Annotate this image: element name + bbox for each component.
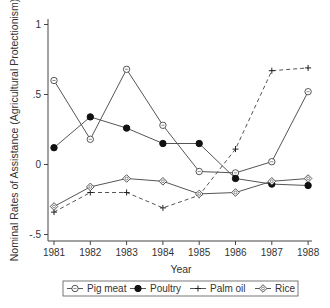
- x-tick-label: 1982: [79, 247, 102, 258]
- open-diamond-marker: [159, 178, 167, 186]
- filled-circle-marker: [232, 175, 238, 181]
- filled-circle-marker: [135, 285, 141, 291]
- x-tick-label: 1983: [115, 247, 138, 258]
- filled-circle-marker: [305, 182, 311, 188]
- nra-line-chart: 1.50-.519811982198319841985198619871988 …: [0, 0, 330, 308]
- y-axis-label: Nominal Rates of Assistance (Agricultura…: [8, 0, 20, 261]
- y-tick-label: -.5: [29, 229, 41, 240]
- x-axis-label: Year: [170, 263, 192, 275]
- legend-label: Poultry: [150, 283, 181, 294]
- x-tick-label: 1981: [43, 247, 66, 258]
- open-diamond-marker: [123, 175, 131, 183]
- open-diamond-marker: [50, 203, 58, 211]
- plus-marker: [269, 68, 275, 74]
- series-line: [54, 69, 308, 173]
- open-diamond-marker: [195, 190, 203, 198]
- legend-label: Rice: [275, 283, 295, 294]
- open-diamond-marker: [87, 183, 95, 191]
- plus-marker: [124, 190, 130, 196]
- x-tick-label: 1986: [224, 247, 247, 258]
- y-tick-label: 0: [35, 159, 41, 170]
- series-line: [54, 117, 308, 186]
- x-tick-label: 1985: [188, 247, 211, 258]
- legend: Pig meatPoultryPalm oilRice: [63, 281, 298, 296]
- x-tick-label: 1987: [261, 247, 284, 258]
- plus-marker: [160, 205, 166, 211]
- filled-circle-marker: [196, 140, 202, 146]
- legend-label: Palm oil: [210, 283, 246, 294]
- filled-circle-marker: [123, 125, 129, 131]
- filled-circle-marker: [160, 140, 166, 146]
- y-tick-label: 1: [35, 19, 41, 30]
- y-tick-label: .5: [33, 89, 42, 100]
- x-tick-label: 1984: [152, 247, 175, 258]
- x-tick-label: 1988: [297, 247, 320, 258]
- plus-marker: [305, 65, 311, 71]
- filled-circle-marker: [87, 114, 93, 120]
- axes: 1.50-.519811982198319841985198619871988: [29, 19, 319, 258]
- open-diamond-marker: [232, 189, 240, 197]
- plot-area: [50, 65, 312, 215]
- open-diamond-marker: [304, 175, 312, 183]
- filled-circle-marker: [51, 145, 57, 151]
- legend-label: Pig meat: [87, 283, 127, 294]
- series-pig-meat: [51, 66, 312, 176]
